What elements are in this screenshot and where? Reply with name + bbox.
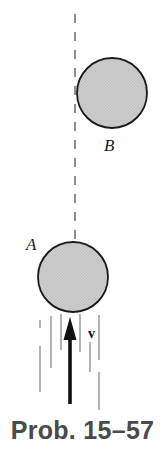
ball-b-label: B — [104, 137, 114, 154]
upward-velocity-arrow — [64, 317, 77, 404]
figure-caption: Prob. 15–57 — [0, 418, 165, 443]
arrow-head — [64, 317, 77, 340]
ball-b-circle — [77, 58, 147, 128]
figure-canvas — [0, 0, 165, 453]
velocity-label: v — [88, 327, 95, 341]
ball-a-label: A — [26, 236, 36, 253]
ball-a-circle — [38, 242, 108, 312]
problem-figure: A B v Prob. 15–57 — [0, 0, 165, 453]
